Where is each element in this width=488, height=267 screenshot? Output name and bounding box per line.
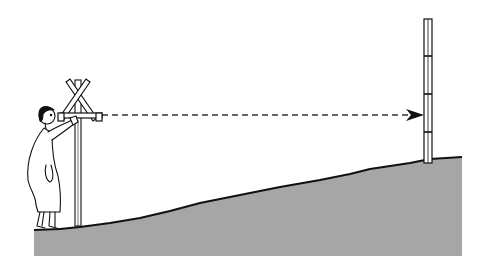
sloped-ground	[34, 157, 462, 256]
surveying-illustration	[0, 0, 488, 267]
graduated-staff	[424, 19, 432, 163]
sight-line-dashed-arrow	[102, 109, 424, 121]
surveyor-figure	[28, 107, 78, 229]
